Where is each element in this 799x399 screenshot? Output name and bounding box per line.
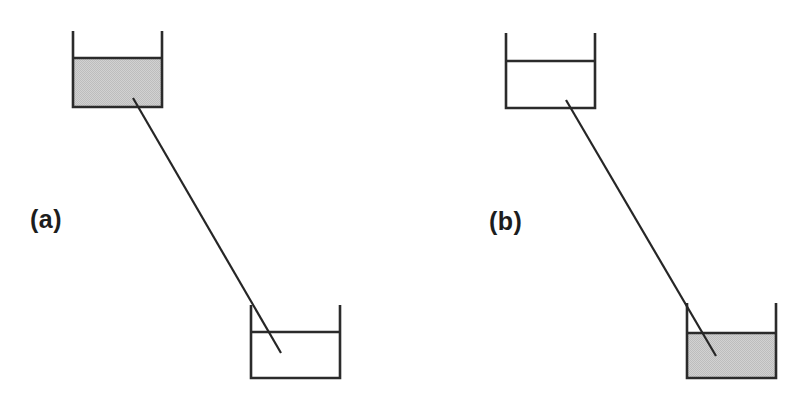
panel-b-lower-liquid bbox=[687, 333, 776, 378]
figure-root: (a) (b) bbox=[0, 0, 799, 399]
panel-a-label: (a) bbox=[30, 205, 62, 233]
panel-a-upper-liquid bbox=[73, 58, 162, 107]
panel-a-lower-liquid bbox=[251, 332, 340, 378]
panel-b-upper-liquid bbox=[506, 61, 595, 108]
figure-canvas: (a) (b) bbox=[0, 0, 799, 399]
panel-b-label: (b) bbox=[489, 207, 522, 235]
